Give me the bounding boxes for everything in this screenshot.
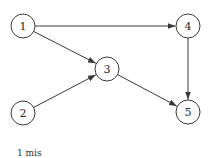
node-3: 3 bbox=[95, 57, 119, 81]
node-5: 5 bbox=[176, 100, 200, 124]
graph-diagram: 12345 bbox=[0, 0, 211, 158]
node-label: 4 bbox=[185, 20, 192, 33]
node-4: 4 bbox=[176, 14, 200, 38]
node-1: 1 bbox=[11, 14, 35, 38]
node-label: 2 bbox=[20, 107, 27, 120]
node-label: 1 bbox=[20, 20, 27, 33]
nodes-group: 12345 bbox=[11, 14, 200, 125]
edge-2-to-3 bbox=[34, 75, 96, 108]
edge-1-to-3 bbox=[34, 31, 96, 63]
node-label: 5 bbox=[185, 106, 192, 119]
edge-3-to-5 bbox=[118, 75, 177, 107]
node-2: 2 bbox=[11, 101, 35, 125]
node-label: 3 bbox=[104, 63, 111, 76]
diagram-caption: 1 mis bbox=[17, 148, 42, 158]
